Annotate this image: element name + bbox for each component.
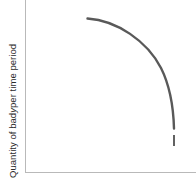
figure-container: Quantity of bad y per time period <box>0 0 196 185</box>
plot-background <box>0 0 196 185</box>
chart-canvas <box>0 0 196 185</box>
